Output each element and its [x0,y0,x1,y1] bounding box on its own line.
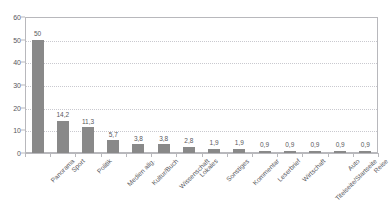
y-tick-mark [21,17,25,18]
bar-value-label: 5,7 [109,132,118,139]
x-tick-mark [50,153,51,157]
x-tick-label: Politik [96,158,113,175]
y-tick-label: 50 [13,36,21,43]
bar-value-label: 11,3 [82,119,94,126]
bar-group[interactable]: 1,9 [227,17,252,153]
bar-value-label: 0,9 [361,142,370,149]
bar-value-label: 14,2 [56,112,69,119]
bars-layer: 5014,211,35,73,83,82,81,91,90,90,90,90,9… [25,17,378,153]
bar-group[interactable]: 0,9 [252,17,277,153]
bar[interactable] [132,144,144,153]
bar-value-label: 0,9 [336,142,345,149]
bar-group[interactable]: 14,2 [50,17,75,153]
bar-group[interactable]: 3,8 [151,17,176,153]
x-tick-label: Sonstiges [226,158,251,183]
y-tick-label: 30 [13,82,21,89]
x-tick-mark [75,153,76,157]
bar[interactable] [82,127,94,153]
bar-value-label: 3,8 [159,136,168,143]
y-tick-mark [21,85,25,86]
bar-group[interactable]: 0,9 [302,17,327,153]
x-tick-label: Kommentar [252,158,281,187]
y-tick-label: 20 [13,104,21,111]
bar-group[interactable]: 11,3 [75,17,100,153]
x-tick-mark [202,153,203,157]
x-tick-mark [252,153,253,157]
bar-value-label: 1,9 [210,140,219,147]
bar-value-label: 50 [34,31,41,38]
bar-group[interactable]: 2,8 [176,17,201,153]
y-tick-mark [21,62,25,63]
y-tick-label: 10 [13,127,21,134]
x-tick-mark [378,153,379,157]
bar-value-label: 1,9 [235,140,244,147]
x-tick-mark [176,153,177,157]
bar[interactable] [158,144,170,153]
x-tick-mark [101,153,102,157]
x-tick-mark [277,153,278,157]
x-tick-mark [302,153,303,157]
bar-value-label: 2,8 [184,138,193,145]
bar[interactable] [57,121,69,153]
bar[interactable] [107,140,119,153]
bar-group[interactable]: 5,7 [101,17,126,153]
bar-value-label: 0,9 [260,142,269,149]
y-tick-mark [21,130,25,131]
y-tick-mark [21,107,25,108]
x-axis-labels: PanoramaSportPolitikMedien allg.Kultur/B… [25,158,378,223]
bar-value-label: 0,9 [310,142,319,149]
y-tick-label: 60 [13,14,21,21]
bar-group[interactable]: 0,9 [277,17,302,153]
x-tick-mark [353,153,354,157]
y-tick-mark [21,39,25,40]
x-tick-mark [151,153,152,157]
x-tick-mark [25,153,26,157]
y-tick-label: 40 [13,59,21,66]
bar-group[interactable]: 1,9 [202,17,227,153]
x-tick-label: Wirtschaft [301,158,326,183]
bar-group[interactable]: 50 [25,17,50,153]
bar-value-label: 3,8 [134,136,143,143]
bar-group[interactable]: 0,9 [328,17,353,153]
x-tick-mark [126,153,127,157]
x-tick-mark [227,153,228,157]
bar-group[interactable]: 3,8 [126,17,151,153]
x-tick-mark [328,153,329,157]
bar-value-label: 0,9 [285,142,294,149]
bar[interactable] [32,40,44,153]
bar-group[interactable]: 0,9 [353,17,378,153]
y-axis: 0102030405060 [0,17,21,153]
